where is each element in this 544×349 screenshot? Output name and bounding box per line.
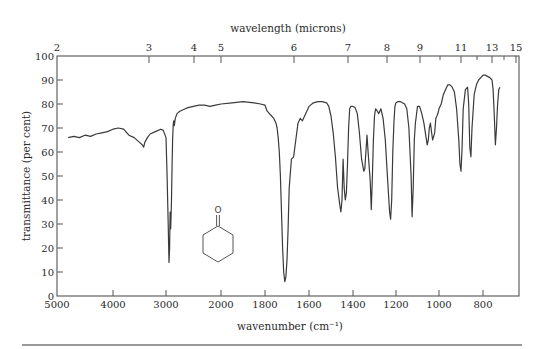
oxygen-label: O [214,205,221,215]
top-tick-label: 15 [510,42,523,53]
top-tick-label: 2 [54,42,60,53]
x-tick-label: 5000 [44,299,69,310]
y-tick-label: 50 [41,171,54,182]
top-tick-label: 7 [345,42,351,53]
top-tick-label: 3 [146,42,152,53]
y-tick-label: 90 [41,75,54,86]
x-tick-label: 1800 [252,299,277,310]
x-tick-label: 1200 [383,299,408,310]
y-tick-label: 100 [35,51,54,62]
x-tick-label: 1000 [426,299,451,310]
y-tick-label: 70 [41,123,54,134]
x-tick-label: 800 [473,299,492,310]
top-tick-label: 6 [291,42,297,53]
y-tick-label: 80 [41,99,54,110]
top-tick-label: 8 [384,42,390,53]
top-tick-label: 5 [218,42,224,53]
x-tick-label: 4000 [100,299,125,310]
top-axis-title: wavelength (microns) [230,22,346,34]
cyclohexanone-structure-icon: O [203,205,233,262]
y-tick-label: 40 [41,195,54,206]
y-tick-label: 60 [41,147,54,158]
top-axis-ticks: 23456789111315 [54,42,523,63]
top-tick-label: 13 [486,42,499,53]
plot-frame [57,56,519,296]
y-tick-label: 30 [41,219,54,230]
x-tick-label: 2000 [208,299,233,310]
y-tick-label: 20 [41,243,54,254]
top-tick-label: 9 [417,42,423,53]
spectrum-line [68,75,500,281]
x-tick-label: 1400 [340,299,365,310]
y-axis-ticks: 0102030405060708090100 [35,51,63,302]
y-axis-title: transmittance (per cent) [20,111,32,241]
y-tick-label: 10 [41,267,54,278]
x-axis-title: wavenumber (cm⁻¹) [237,320,343,332]
x-tick-label: 3000 [153,299,178,310]
ir-spectrum-chart: wavelength (microns) 23456789111315 0102… [0,0,544,349]
top-tick-label: 4 [191,42,197,53]
top-tick-label: 11 [455,42,468,53]
bottom-axis-ticks: 500040003000200018001600140012001000800 [44,290,492,310]
x-tick-label: 1600 [296,299,321,310]
